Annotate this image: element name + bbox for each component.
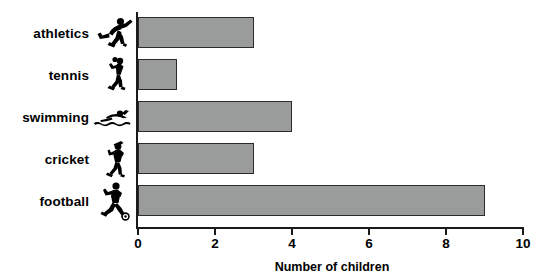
x-tick-4 (291, 229, 293, 235)
x-tick-label: 0 (118, 236, 158, 251)
x-tick-6 (368, 229, 370, 235)
category-label: swimming (22, 110, 89, 125)
y-axis-line (136, 12, 138, 228)
category-row-athletics: athletics (0, 12, 138, 54)
x-axis-line (136, 227, 524, 229)
category-label: tennis (49, 68, 89, 83)
x-tick-2 (214, 229, 216, 235)
category-label: athletics (33, 26, 89, 41)
x-axis-title: Number of children (138, 260, 526, 274)
swimmer-icon (92, 97, 138, 137)
x-tick-label: 10 (503, 236, 543, 251)
x-tick-8 (445, 229, 447, 235)
category-row-swimming: swimming (0, 96, 138, 138)
runner-icon (92, 13, 138, 53)
x-tick-label: 2 (195, 236, 235, 251)
x-tick-label: 8 (426, 236, 466, 251)
category-row-cricket: cricket (0, 138, 138, 180)
bar-swimming (138, 101, 292, 132)
bar-cricket (138, 143, 254, 174)
bar-tennis (138, 59, 177, 90)
category-label: football (39, 194, 89, 209)
footballer-icon (92, 181, 138, 221)
category-row-tennis: tennis (0, 54, 138, 96)
category-label: cricket (45, 152, 89, 167)
x-tick-0 (137, 229, 139, 235)
x-tick-label: 6 (349, 236, 389, 251)
category-row-football: football (0, 180, 138, 222)
bar-football (138, 185, 485, 216)
x-tick-label: 4 (272, 236, 312, 251)
cricket-batsman-icon (92, 139, 138, 179)
tennis-player-icon (92, 55, 138, 95)
bar-chart: athletics tennis (0, 0, 546, 280)
x-tick-10 (522, 229, 524, 235)
bar-athletics (138, 17, 254, 48)
